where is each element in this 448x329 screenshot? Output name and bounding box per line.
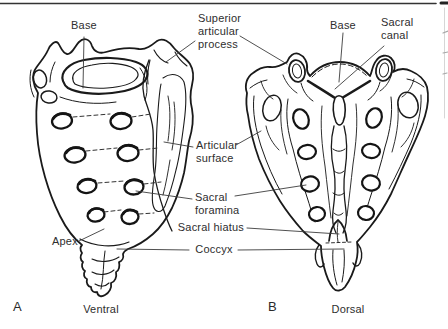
- panel-letter-b: B: [268, 299, 277, 314]
- cropped-text-fragment: [443, 73, 447, 74]
- cropped-text-fragment: [443, 52, 448, 53]
- panel-letter-a: A: [13, 299, 22, 314]
- cropped-text-fragment: [443, 31, 448, 33]
- label-superior-articular-process: Superior articular process: [198, 12, 254, 50]
- label-base-ventral: Base: [60, 19, 108, 32]
- panel-caption-dorsal: Dorsal: [318, 303, 378, 316]
- dorsal-outline: [246, 53, 428, 290]
- label-sacral-foramina: Sacral foramina: [195, 191, 243, 217]
- label-coccyx: Coccyx: [190, 243, 238, 256]
- label-apex: Apex: [52, 235, 78, 248]
- spinous-tubercle: [333, 96, 345, 125]
- label-base-dorsal: Base: [319, 19, 367, 32]
- sacrum-dorsal-drawing: [246, 53, 428, 290]
- panel-caption-ventral: Ventral: [71, 303, 131, 316]
- label-sacral-hiatus: Sacral hiatus: [178, 221, 244, 234]
- anatomy-figure-page: Base Superior articular process Base Sac…: [0, 0, 448, 329]
- sacrum-ventral-drawing: [30, 39, 193, 296]
- label-articular-surface: Articular surface: [196, 139, 242, 165]
- label-sacral-canal: Sacral canal: [381, 16, 423, 42]
